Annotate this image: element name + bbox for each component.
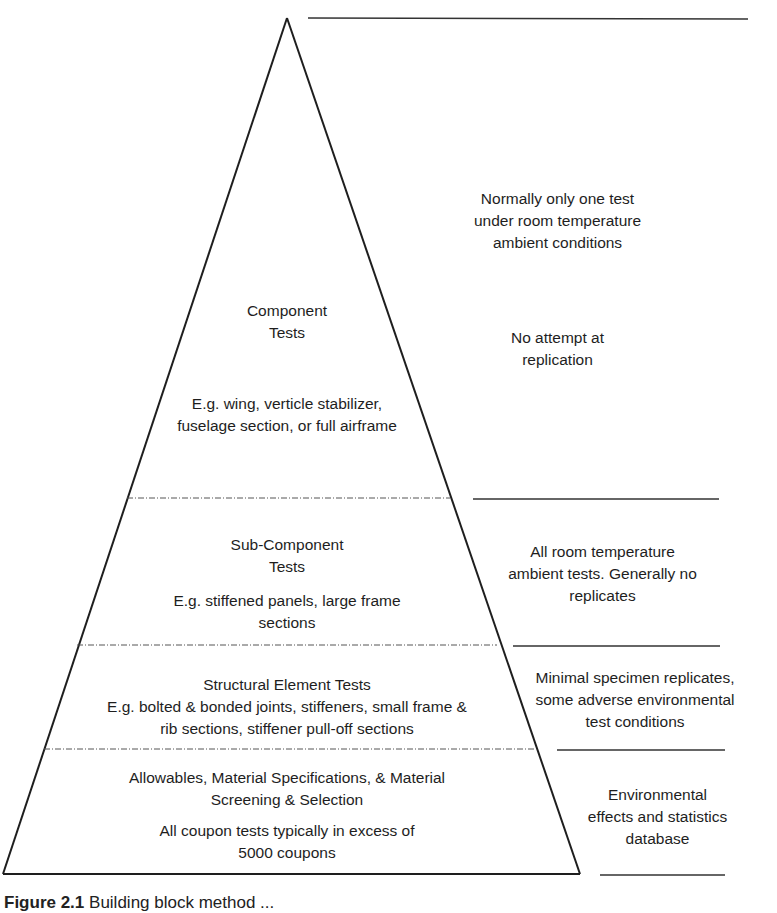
note-line: All room temperature [480,541,725,563]
tier-structural-detail: E.g. bolted & bonded joints, stiffeners,… [62,696,512,740]
note-line: ambient tests. Generally no [480,563,725,585]
tier-detail-line: fuselage section, or full airframe [147,415,427,437]
note-line: Minimal specimen replicates, [510,667,760,689]
tier-component-detail: E.g. wing, verticle stabilizer, fuselage… [147,393,427,437]
note-line: Environmental [570,784,745,806]
note-line: database [570,828,745,850]
tier-detail-line: sections [137,612,437,634]
tier-detail-line: rib sections, stiffener pull-off section… [62,718,512,740]
note-line: replicates [480,585,725,607]
tier-detail-line: 5000 coupons [112,842,462,864]
note-line: some adverse environmental [510,689,760,711]
tier-title-line: Allowables, Material Specifications, & M… [62,767,512,789]
note-line: replication [480,349,635,371]
tier-subcomponent-title: Sub-Component Tests [187,534,387,578]
tier-allowables-detail: All coupon tests typically in excess of … [112,820,462,864]
tier-detail-line: E.g. stiffened panels, large frame [137,590,437,612]
caption-label: Figure 2.1 [4,893,84,912]
tier-detail-line: All coupon tests typically in excess of [112,820,462,842]
note-allowables: Environmental effects and statistics dat… [570,784,745,850]
tier-title-line: Sub-Component [187,534,387,556]
note-line: Normally only one test [450,188,665,210]
tier-allowables-title: Allowables, Material Specifications, & M… [62,767,512,811]
note-component: No attempt at replication [480,327,635,371]
tier-structural-title: Structural Element Tests [87,674,487,696]
tier-component-title: Component Tests [187,300,387,344]
note-subcomponent: All room temperature ambient tests. Gene… [480,541,725,607]
caption-text: Building block method ... [89,893,274,912]
tier-title-line: Screening & Selection [62,789,512,811]
note-structural: Minimal specimen replicates, some advers… [510,667,760,733]
note-component-top: Normally only one test under room temper… [450,188,665,254]
tier-title-line: Structural Element Tests [87,674,487,696]
tier-title-line: Tests [187,556,387,578]
tier-title-line: Component [187,300,387,322]
tier-subcomponent-detail: E.g. stiffened panels, large frame secti… [137,590,437,634]
note-line: ambient conditions [450,232,665,254]
tier-title-line: Tests [187,322,387,344]
tier-detail-line: E.g. wing, verticle stabilizer, [147,393,427,415]
note-line: under room temperature [450,210,665,232]
note-line: test conditions [510,711,760,733]
note-line: No attempt at [480,327,635,349]
tier-detail-line: E.g. bolted & bonded joints, stiffeners,… [62,696,512,718]
figure-caption: Figure 2.1 Building block method ... [4,893,274,913]
note-line: effects and statistics [570,806,745,828]
